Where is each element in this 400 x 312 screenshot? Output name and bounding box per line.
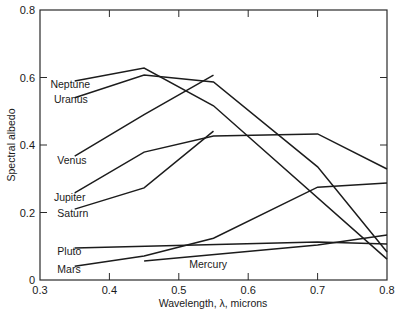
x-axis: 0.30.40.50.60.70.8 [32, 10, 394, 296]
series-label-venus: Venus [57, 154, 86, 166]
spectral-albedo-chart: 0.30.40.50.60.70.8 00.20.40.60.8 Neptune… [0, 0, 400, 312]
y-tick-label: 0.6 [20, 72, 35, 84]
chart-canvas: 0.30.40.50.60.70.8 00.20.40.60.8 Neptune… [0, 0, 400, 312]
series-line-pluto [75, 242, 387, 248]
series-line-mercury [144, 235, 387, 261]
series-label-uranus: Uranus [54, 93, 88, 105]
y-tick-label: 0.4 [20, 139, 35, 151]
series-label-mars: Mars [57, 263, 80, 275]
x-tick-label: 0.7 [310, 284, 325, 296]
series-label-neptune: Neptune [50, 78, 90, 90]
series-line-jupiter [75, 134, 387, 193]
x-tick-label: 0.6 [241, 284, 256, 296]
y-axis-title: Spectral albedo [5, 108, 17, 181]
y-tick-label: 0 [29, 274, 35, 286]
series-label-pluto: Pluto [57, 245, 81, 257]
y-tick-label: 0.2 [20, 207, 35, 219]
series-line-uranus [75, 75, 387, 252]
series-label-saturn: Saturn [57, 207, 88, 219]
x-tick-label: 0.5 [171, 284, 186, 296]
series-label-jupiter: Jupiter [54, 191, 86, 203]
series-label-mercury: Mercury [189, 258, 228, 270]
y-tick-label: 0.8 [20, 4, 35, 16]
x-axis-title: Wavelength, λ, microns [159, 297, 268, 309]
x-tick-label: 0.4 [102, 284, 117, 296]
y-axis: 00.20.40.60.8 [20, 4, 387, 286]
series-line-venus [75, 75, 214, 156]
x-tick-label: 0.8 [379, 284, 394, 296]
series-lines [75, 68, 387, 266]
